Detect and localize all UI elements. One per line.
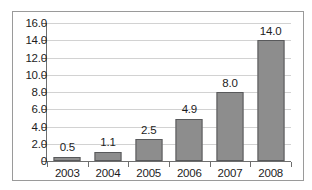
bar-value-label: 4.9 (182, 104, 197, 116)
bar-slot: 4.9 (169, 23, 210, 161)
bar-slot: 14.0 (250, 23, 291, 161)
x-axis-category-label: 2005 (128, 168, 169, 180)
bar[interactable] (257, 40, 284, 161)
y-axis-tick-label: 14.0 (15, 35, 47, 47)
bar-slot: 1.1 (88, 23, 129, 161)
x-axis-labels-group: 200320042005200620072008 (47, 168, 291, 186)
bar-slot: 0.5 (47, 23, 88, 161)
x-axis-tick (250, 162, 251, 167)
x-axis-category-label: 2008 (250, 168, 291, 180)
x-axis-tick (128, 162, 129, 167)
x-axis-category-label: 2007 (210, 168, 251, 180)
y-axis-tick-label: 16.0 (15, 18, 47, 30)
x-axis-category-label: 2004 (88, 168, 129, 180)
bar-value-label: 8.0 (222, 78, 237, 90)
x-axis-tick (47, 162, 48, 167)
bar-value-label: 1.1 (100, 137, 115, 149)
x-axis-tick (169, 162, 170, 167)
bar-slot: 8.0 (210, 23, 251, 161)
y-axis-tick-label: 0 (15, 156, 47, 168)
bar[interactable] (54, 157, 81, 161)
y-axis-tick-label: 8.0 (15, 87, 47, 99)
bar-value-label: 2.5 (141, 125, 156, 137)
bar[interactable] (135, 139, 162, 161)
y-axis-tick-label: 4.0 (15, 122, 47, 134)
y-axis-tick-label: 10.0 (15, 70, 47, 82)
bar-chart: 02.04.06.08.010.012.014.016.0 0.51.12.54… (13, 12, 303, 180)
x-axis-category-label: 2003 (47, 168, 88, 180)
x-axis-tick (291, 162, 292, 167)
bar-slot: 2.5 (128, 23, 169, 161)
bar[interactable] (176, 119, 203, 161)
chart-figure-frame: 02.04.06.08.010.012.014.016.0 0.51.12.54… (12, 11, 304, 181)
bar-value-label: 0.5 (60, 142, 75, 154)
bar[interactable] (216, 92, 243, 161)
y-axis-tick-label: 12.0 (15, 53, 47, 65)
bar-value-label: 14.0 (260, 26, 282, 38)
bars-group: 0.51.12.54.98.014.0 (47, 23, 291, 161)
x-axis-category-label: 2006 (169, 168, 210, 180)
x-axis-tick (210, 162, 211, 167)
bar[interactable] (94, 152, 121, 161)
x-axis-tick (88, 162, 89, 167)
y-axis-tick-label: 2.0 (15, 139, 47, 151)
y-axis-tick-label: 6.0 (15, 104, 47, 116)
